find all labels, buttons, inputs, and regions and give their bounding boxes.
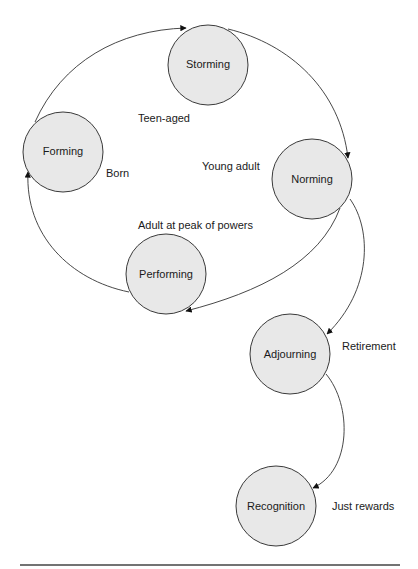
node-recognition-label: Recognition	[247, 500, 305, 512]
edge-performing-to-forming	[28, 172, 129, 292]
node-forming: Forming	[23, 112, 103, 192]
annotation-young-adult: Young adult	[202, 160, 260, 172]
annotation-retirement: Retirement	[342, 340, 396, 352]
annotation-teen-aged: Teen-aged	[138, 112, 190, 124]
node-norming: Norming	[272, 139, 352, 219]
node-forming-label: Forming	[43, 145, 83, 157]
annotation-just-rewards: Just rewards	[332, 500, 395, 512]
edge-norming-to-adjourning	[327, 199, 364, 334]
node-storming-label: Storming	[186, 58, 230, 70]
team-lifecycle-diagram: Storming Forming Norming Performing Adjo…	[0, 0, 418, 569]
annotation-adult-peak: Adult at peak of powers	[138, 219, 253, 231]
node-performing-label: Performing	[139, 268, 193, 280]
node-storming: Storming	[168, 25, 248, 105]
node-performing: Performing	[126, 234, 206, 314]
edge-adjourning-to-recognition	[313, 374, 344, 488]
node-norming-label: Norming	[291, 173, 333, 185]
edge-forming-to-storming	[35, 28, 186, 122]
node-recognition: Recognition	[236, 466, 316, 546]
node-adjourning: Adjourning	[250, 314, 330, 394]
node-adjourning-label: Adjourning	[264, 348, 317, 360]
edge-storming-to-norming	[228, 29, 348, 158]
annotation-born: Born	[106, 167, 129, 179]
